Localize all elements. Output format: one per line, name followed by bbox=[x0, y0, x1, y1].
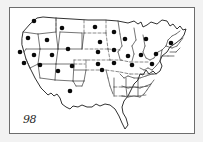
marker-dot bbox=[169, 41, 174, 46]
marker-dot bbox=[96, 62, 101, 67]
state-boundaries-dashed bbox=[56, 18, 154, 96]
us-national-outline bbox=[22, 17, 186, 129]
marker-dot bbox=[60, 26, 65, 31]
us-map-svg bbox=[10, 8, 195, 134]
marker-dot bbox=[18, 50, 23, 55]
marker-dot bbox=[144, 37, 149, 42]
marker-dot bbox=[98, 40, 103, 45]
marker-dot bbox=[68, 89, 73, 94]
marker-dot bbox=[45, 38, 50, 43]
marker-dot bbox=[130, 63, 135, 68]
boundary-texas bbox=[73, 70, 86, 86]
marker-dot bbox=[50, 53, 55, 58]
map-frame: 98 bbox=[9, 7, 195, 134]
marker-dot bbox=[32, 53, 37, 58]
marker-dot bbox=[56, 69, 61, 74]
marker-dot bbox=[123, 37, 128, 42]
marker-dot bbox=[126, 54, 131, 59]
marker-dot bbox=[26, 36, 31, 41]
state-boundaries-solid bbox=[23, 18, 183, 97]
marker-dot bbox=[112, 48, 117, 53]
marker-dot bbox=[32, 19, 37, 24]
marker-dot bbox=[38, 63, 43, 68]
marker-dot bbox=[112, 61, 117, 66]
boundary-pacific-northwest bbox=[38, 18, 58, 49]
marker-dot bbox=[66, 47, 71, 52]
map-figure: 98 bbox=[0, 0, 203, 142]
boundary-southwest bbox=[38, 49, 74, 81]
marker-dot-layer bbox=[18, 19, 174, 94]
marker-dot bbox=[150, 62, 155, 67]
marker-dot bbox=[100, 68, 105, 73]
marker-dot bbox=[96, 50, 101, 55]
marker-dot bbox=[70, 64, 75, 69]
marker-dot bbox=[93, 25, 98, 30]
boundary-mountain bbox=[58, 32, 84, 49]
marker-dot bbox=[22, 61, 27, 66]
corner-label: 98 bbox=[23, 114, 36, 125]
marker-dot bbox=[139, 53, 144, 58]
national-outline-group bbox=[22, 17, 186, 129]
boundary-dashed-north-tier bbox=[56, 18, 110, 70]
boundary-dashed-midsouth bbox=[120, 60, 154, 74]
marker-dot bbox=[154, 52, 159, 57]
boundary-great-lakes bbox=[118, 21, 162, 70]
marker-dot bbox=[112, 30, 117, 35]
